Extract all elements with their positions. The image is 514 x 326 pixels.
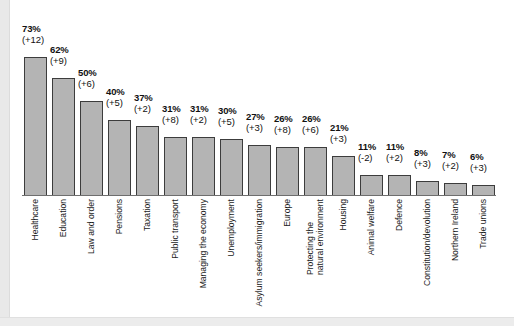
page-left-margin [0, 0, 9, 326]
bar[interactable] [164, 137, 187, 196]
bar[interactable] [220, 139, 243, 196]
bar-change-label: (+3) [330, 133, 358, 144]
bar-column[interactable]: 37%(+2) [134, 0, 162, 196]
bar-column[interactable]: 26%(+8) [274, 0, 302, 196]
bar-value-labels: 6%(+3) [470, 151, 498, 173]
category-labels-layer: HealthcareEducationLaw and orderPensions… [22, 199, 496, 317]
bar-column[interactable]: 27%(+3) [246, 0, 274, 196]
bar-value-label: 31% [162, 103, 190, 114]
bar-change-label: (+2) [442, 160, 470, 171]
category-label: Housing [330, 199, 358, 314]
bar-column[interactable]: 31%(+2) [190, 0, 218, 196]
bar[interactable] [136, 126, 159, 196]
bar[interactable] [276, 147, 299, 196]
bar-value-labels: 50%(+6) [78, 67, 106, 89]
bar-change-label: (+6) [78, 78, 106, 89]
bar-value-label: 26% [274, 113, 302, 124]
bar-value-label: 7% [442, 149, 470, 160]
bar-chart: 73%(+12)62%(+9)50%(+6)40%(+5)37%(+2)31%(… [10, 0, 514, 318]
bar-change-label: (-2) [358, 152, 386, 163]
category-label-text: Healthcare [31, 199, 41, 241]
bar-change-label: (+9) [50, 55, 78, 66]
category-label-text: Taxation [143, 199, 153, 231]
bar-value-label: 11% [358, 141, 386, 152]
bar-column[interactable]: 31%(+8) [162, 0, 190, 196]
bar-value-labels: 21%(+3) [330, 122, 358, 144]
bar-value-labels: 62%(+9) [50, 44, 78, 66]
category-label: Europe [274, 199, 302, 314]
bar[interactable] [24, 57, 47, 196]
bar-value-labels: 37%(+2) [134, 92, 162, 114]
bar-value-labels: 31%(+2) [190, 103, 218, 125]
category-label-text: Education [59, 199, 69, 237]
bar-value-label: 11% [386, 141, 414, 152]
bar-value-labels: 73%(+12) [22, 23, 50, 45]
category-label: Asylum seekers/immigration [246, 199, 274, 314]
category-label: Law and order [78, 199, 106, 314]
bar-value-labels: 27%(+3) [246, 111, 274, 133]
bar-column[interactable]: 62%(+9) [50, 0, 78, 196]
category-label: Defence [386, 199, 414, 314]
bar-column[interactable]: 11%(-2) [358, 0, 386, 196]
bar[interactable] [52, 78, 75, 196]
bar-value-label: 62% [50, 44, 78, 55]
bar-value-label: 73% [22, 23, 50, 34]
bar-change-label: (+2) [134, 103, 162, 114]
bar-value-label: 27% [246, 111, 274, 122]
bar-value-labels: 7%(+2) [442, 149, 470, 171]
bar-change-label: (+2) [386, 152, 414, 163]
category-label-text: Unemployment [227, 199, 237, 257]
bar-column[interactable]: 73%(+12) [22, 0, 50, 196]
category-label: Public transport [162, 199, 190, 314]
bar-value-labels: 31%(+8) [162, 103, 190, 125]
bar-column[interactable]: 26%(+6) [302, 0, 330, 196]
bar-value-label: 8% [414, 147, 442, 158]
category-label-text: Asylum seekers/immigration [255, 199, 265, 306]
category-label-text: Managing the economy [199, 199, 209, 288]
bar-column[interactable]: 6%(+3) [470, 0, 498, 196]
bar-change-label: (+6) [302, 124, 330, 135]
bar[interactable] [80, 101, 103, 196]
bar[interactable] [332, 156, 355, 196]
bar-change-label: (+12) [22, 34, 50, 45]
bar-change-label: (+5) [106, 97, 134, 108]
category-label: Pensions [106, 199, 134, 314]
category-label-text: Europe [283, 199, 293, 227]
bar-value-label: 40% [106, 86, 134, 97]
bar-column[interactable]: 7%(+2) [442, 0, 470, 196]
bar-column[interactable]: 21%(+3) [330, 0, 358, 196]
bar[interactable] [192, 137, 215, 196]
category-label-text: Defence [395, 199, 405, 231]
bar-change-label: (+3) [414, 158, 442, 169]
bar-value-labels: 11%(-2) [358, 141, 386, 163]
bar-value-label: 6% [470, 151, 498, 162]
bar-change-label: (+3) [470, 162, 498, 173]
category-label: Protecting thenatural environment [302, 199, 330, 314]
bar-value-labels: 26%(+6) [302, 113, 330, 135]
bar-column[interactable]: 50%(+6) [78, 0, 106, 196]
category-label: Constitution/devolution [414, 199, 442, 314]
bar[interactable] [248, 145, 271, 196]
chart-page: 73%(+12)62%(+9)50%(+6)40%(+5)37%(+2)31%(… [0, 0, 514, 326]
bar-value-label: 21% [330, 122, 358, 133]
bar[interactable] [304, 147, 327, 196]
bar[interactable] [416, 181, 439, 196]
bar[interactable] [360, 175, 383, 196]
bar[interactable] [108, 120, 131, 196]
category-label: Taxation [134, 199, 162, 314]
bar-value-labels: 8%(+3) [414, 147, 442, 169]
bar-column[interactable]: 8%(+3) [414, 0, 442, 196]
category-label-text: Law and order [87, 199, 97, 254]
bar-column[interactable]: 40%(+5) [106, 0, 134, 196]
bar[interactable] [388, 175, 411, 196]
bar-value-label: 50% [78, 67, 106, 78]
bar-change-label: (+5) [218, 116, 246, 127]
category-label: Education [50, 199, 78, 314]
bar-change-label: (+3) [246, 122, 274, 133]
bar-value-label: 26% [302, 113, 330, 124]
bar-column[interactable]: 30%(+5) [218, 0, 246, 196]
category-label-text: Housing [339, 199, 349, 231]
category-label-text: Pensions [115, 199, 125, 234]
bar-value-label: 30% [218, 105, 246, 116]
bar-column[interactable]: 11%(+2) [386, 0, 414, 196]
